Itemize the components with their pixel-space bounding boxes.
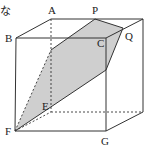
label-B: B	[5, 32, 12, 44]
edge-B-A	[16, 19, 51, 38]
label-G: G	[101, 135, 109, 147]
label-A: A	[48, 4, 56, 16]
label-F: F	[5, 125, 11, 137]
edge-G-backbottomright	[106, 112, 143, 131]
cross-section-shaded	[15, 19, 123, 131]
label-P: P	[92, 4, 98, 16]
label-C: C	[97, 37, 104, 49]
cube-diagram: な A P B C Q E F G	[0, 0, 144, 148]
edge-B-F	[15, 38, 16, 131]
partial-text: な	[0, 5, 11, 17]
label-E: E	[42, 100, 49, 112]
label-Q: Q	[125, 30, 133, 42]
